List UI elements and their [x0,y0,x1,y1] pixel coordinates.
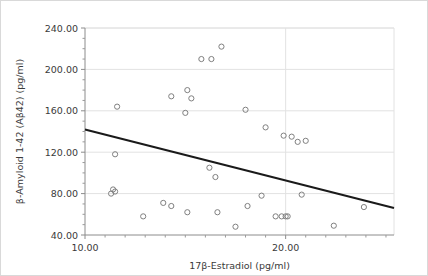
axes [85,28,394,235]
data-point-marker [331,223,336,228]
data-point-marker [161,200,166,205]
data-point-marker [361,204,366,209]
chart-canvas: 40.0080.00120.00160.00200.00240.0010.002… [1,1,428,276]
data-point-marker [263,125,268,130]
y-tick-label: 240.00 [45,23,78,34]
y-tick-label: 80.00 [51,188,78,199]
data-point-marker [213,174,218,179]
x-tick-label: 20.00 [272,242,299,253]
data-points [108,44,366,229]
y-axis-ticks: 40.0080.00120.00160.00200.00240.00 [45,23,85,241]
data-point-marker [215,210,220,215]
y-tick-label: 120.00 [45,147,78,158]
x-axis-title: 17β-Estradiol (pg/ml) [189,260,290,271]
data-point-marker [185,210,190,215]
data-point-marker [219,44,224,49]
regression-trendline [85,129,394,208]
data-point-marker [207,165,212,170]
data-point-marker [169,94,174,99]
data-point-marker [199,56,204,61]
data-point-marker [289,134,294,139]
data-point-marker [209,56,214,61]
data-point-marker [295,139,300,144]
data-point-marker [115,104,120,109]
data-point-marker [141,214,146,219]
data-point-marker [245,203,250,208]
x-tick-label: 10.00 [71,242,98,253]
y-tick-label: 200.00 [45,64,78,75]
data-point-marker [189,96,194,101]
y-tick-label: 40.00 [51,230,78,241]
scatter-plot-figure: 40.0080.00120.00160.00200.00240.0010.002… [0,0,428,276]
data-point-marker [243,107,248,112]
data-point-marker [303,138,308,143]
data-point-marker [299,192,304,197]
y-tick-label: 160.00 [45,105,78,116]
y-axis-title: β-Amyloid 1-42 (Aβ42) (pg/ml) [14,59,25,204]
grid-lines [85,28,394,235]
data-point-marker [185,88,190,93]
x-axis-ticks: 10.0020.00 [71,235,386,253]
plot-frame [85,28,394,235]
data-point-marker [273,214,278,219]
data-point-marker [233,224,238,229]
data-point-marker [169,203,174,208]
